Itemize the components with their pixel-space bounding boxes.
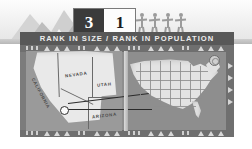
banner-caption: RANK IN SIZE / RANK IN POPULATION xyxy=(20,32,234,45)
location-marker-icon xyxy=(60,106,69,115)
decorative-border-bottom xyxy=(20,130,234,137)
state-boundary xyxy=(92,57,93,97)
united-states-map xyxy=(130,53,228,127)
compass-seal-icon xyxy=(209,55,220,66)
infographic-page: 3 1 RANK IN SIZE / RANK IN POPULATION xyxy=(0,0,252,149)
map-panel: CALIFORNIA NEVADA UTAH ARIZONA xyxy=(20,45,234,137)
panel-divider xyxy=(124,51,128,131)
western-states-inset: CALIFORNIA NEVADA UTAH ARIZONA xyxy=(26,51,122,131)
